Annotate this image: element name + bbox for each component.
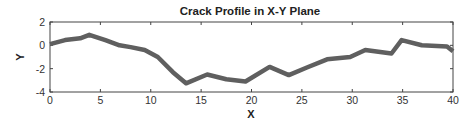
x-tick-label: 0 <box>47 94 53 106</box>
y-tick-label: 0 <box>39 39 45 51</box>
x-tick-label: 15 <box>195 94 207 106</box>
x-tick-label: 10 <box>145 94 157 106</box>
x-tick-label: 30 <box>346 94 358 106</box>
plot-area: 0510152025303540 -4-202 <box>36 16 459 106</box>
x-tick-label: 5 <box>97 94 103 106</box>
chart-title: Crack Profile in X-Y Plane <box>180 5 320 17</box>
line-chart: Crack Profile in X-Y Plane 0510152025303… <box>0 0 473 125</box>
axes-box <box>50 22 453 92</box>
x-axis-label: X <box>247 108 255 120</box>
y-tick-label: 2 <box>39 16 45 28</box>
x-tick-label: 40 <box>447 94 459 106</box>
y-tick-label: -2 <box>36 63 45 75</box>
y-tick-label: -4 <box>36 86 45 98</box>
y-axis-label: Y <box>14 53 26 61</box>
x-tick-label: 25 <box>296 94 308 106</box>
x-tick-label: 35 <box>397 94 409 106</box>
x-tick-label: 20 <box>246 94 258 106</box>
